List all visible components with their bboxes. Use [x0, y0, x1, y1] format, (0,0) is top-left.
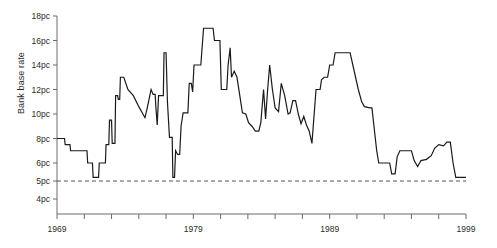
plot-area [0, 0, 497, 248]
x-tick-label: 1989 [320, 224, 339, 234]
x-tick-label: 1969 [48, 224, 67, 234]
y-tick-label: 18pc [32, 11, 50, 21]
x-tick-label: 1999 [457, 224, 476, 234]
y-tick-label: 8pc [36, 134, 50, 144]
bank-base-rate-chart: Bank base rate 18pc16pc14pc12pc10pc8pc6p… [0, 0, 497, 248]
y-tick-label: 5pc [36, 176, 50, 186]
x-tick-label: 1979 [184, 224, 203, 234]
y-tick-label: 14pc [32, 60, 50, 70]
series-line-bank-base-rate [57, 28, 466, 177]
y-tick-label: 10pc [32, 109, 50, 119]
y-tick-label: 4pc [36, 194, 50, 204]
y-tick-label: 16pc [32, 36, 50, 46]
y-tick-label: 6pc [36, 158, 50, 168]
y-tick-label: 12pc [32, 85, 50, 95]
